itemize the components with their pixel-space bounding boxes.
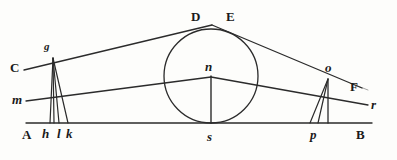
label-g: g bbox=[44, 41, 50, 52]
label-F: F bbox=[350, 80, 358, 93]
label-r: r bbox=[371, 98, 376, 111]
upper-ray-right-EF bbox=[212, 25, 362, 88]
label-o: o bbox=[325, 61, 332, 74]
label-s: s bbox=[207, 130, 212, 143]
label-B: B bbox=[356, 128, 365, 141]
label-n: n bbox=[205, 60, 212, 73]
label-m: m bbox=[12, 93, 22, 106]
figure-root: C g D E F o n m r A h l k s p B bbox=[0, 0, 397, 160]
label-l: l bbox=[57, 127, 61, 140]
label-h: h bbox=[42, 127, 49, 140]
label-D: D bbox=[191, 10, 200, 23]
label-k: k bbox=[66, 127, 73, 140]
label-E: E bbox=[226, 10, 235, 23]
label-p: p bbox=[310, 128, 317, 141]
left-pencil-ray-gk bbox=[53, 58, 68, 123]
label-A: A bbox=[22, 128, 31, 141]
label-C: C bbox=[10, 61, 19, 74]
